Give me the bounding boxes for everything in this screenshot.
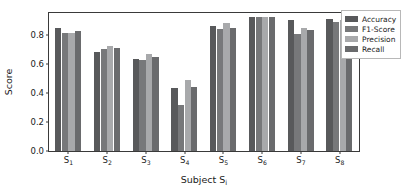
y-tick-mark bbox=[46, 121, 49, 122]
x-tick-label: S7 bbox=[296, 156, 305, 166]
bar bbox=[133, 59, 139, 151]
x-tick-label-subscript: 2 bbox=[108, 159, 112, 166]
x-tick-label-subscript: 6 bbox=[263, 159, 267, 166]
bar bbox=[333, 22, 339, 151]
legend-swatch-icon bbox=[345, 46, 358, 52]
y-tick-mark bbox=[46, 92, 49, 93]
legend-label: Precision bbox=[362, 36, 395, 44]
x-tick-label-subscript: 3 bbox=[147, 159, 151, 166]
x-tick-label: S6 bbox=[257, 156, 266, 166]
x-tick-mark bbox=[339, 151, 340, 154]
legend-item[interactable]: Recall bbox=[345, 45, 396, 55]
bar bbox=[217, 29, 223, 151]
bar bbox=[171, 88, 177, 151]
bar bbox=[294, 34, 300, 151]
legend-label: Accuracy bbox=[362, 16, 396, 24]
y-tick-mark bbox=[46, 63, 49, 64]
y-axis-label: Score bbox=[3, 69, 14, 96]
legend-label: Recall bbox=[362, 46, 384, 54]
bar bbox=[191, 87, 197, 151]
y-tick-label: 0.4 bbox=[30, 89, 44, 98]
figure-canvas: Score 0.00.20.40.60.8S1S2S3S4S5S6S7S8 Su… bbox=[0, 0, 416, 189]
bar bbox=[185, 80, 191, 151]
bar bbox=[94, 52, 100, 152]
x-tick-mark bbox=[262, 151, 263, 154]
x-axis-label-main: Subject S bbox=[181, 174, 226, 185]
bar bbox=[230, 28, 236, 151]
bar bbox=[210, 26, 216, 151]
chart-legend: AccuracyF1-ScorePrecisionRecall bbox=[341, 10, 401, 59]
legend-swatch-icon bbox=[345, 26, 358, 32]
x-tick-label-subscript: 7 bbox=[302, 159, 306, 166]
plot-area: 0.00.20.40.60.8S1S2S3S4S5S6S7S8 bbox=[49, 13, 359, 151]
bar bbox=[55, 28, 61, 151]
x-tick-label: S2 bbox=[102, 156, 111, 166]
bar bbox=[146, 54, 152, 151]
bar bbox=[114, 48, 120, 151]
legend-label: F1-Score bbox=[362, 26, 395, 34]
x-tick-label: S3 bbox=[141, 156, 150, 166]
legend-item[interactable]: Accuracy bbox=[345, 15, 396, 25]
x-tick-mark bbox=[300, 151, 301, 154]
bar bbox=[326, 19, 332, 151]
bar bbox=[152, 57, 158, 151]
y-tick-label: 0.6 bbox=[30, 60, 44, 69]
bar bbox=[62, 33, 68, 151]
x-tick-mark bbox=[107, 151, 108, 154]
legend-swatch-icon bbox=[345, 16, 358, 22]
bar bbox=[139, 60, 145, 151]
x-tick-label-subscript: 1 bbox=[69, 159, 73, 166]
x-tick-mark bbox=[145, 151, 146, 154]
bar bbox=[301, 28, 307, 151]
bar bbox=[288, 20, 294, 151]
x-axis-label-subscript: i bbox=[225, 179, 227, 187]
x-tick-mark bbox=[184, 151, 185, 154]
bar bbox=[223, 23, 229, 151]
bar bbox=[107, 46, 113, 151]
y-tick-mark bbox=[46, 34, 49, 35]
legend-item[interactable]: Precision bbox=[345, 35, 396, 45]
bar bbox=[178, 105, 184, 151]
bar bbox=[307, 30, 313, 151]
legend-item[interactable]: F1-Score bbox=[345, 25, 396, 35]
y-tick-label: 0.2 bbox=[30, 118, 44, 127]
x-tick-label-subscript: 8 bbox=[340, 159, 344, 166]
bar bbox=[249, 17, 255, 151]
x-tick-label-subscript: 4 bbox=[185, 159, 189, 166]
plot-frame: 0.00.20.40.60.8S1S2S3S4S5S6S7S8 bbox=[48, 12, 360, 152]
x-tick-label: S1 bbox=[64, 156, 73, 166]
bar bbox=[75, 31, 81, 151]
x-tick-label: S4 bbox=[180, 156, 189, 166]
legend-swatch-icon bbox=[345, 36, 358, 42]
bar bbox=[269, 17, 275, 151]
x-tick-mark bbox=[68, 151, 69, 154]
x-tick-label: S5 bbox=[219, 156, 228, 166]
y-tick-label: 0.8 bbox=[30, 31, 44, 40]
x-tick-label-subscript: 5 bbox=[224, 159, 228, 166]
x-axis-label: Subject Si bbox=[181, 174, 227, 187]
x-tick-label: S8 bbox=[335, 156, 344, 166]
bar bbox=[262, 17, 268, 151]
y-tick-mark bbox=[46, 151, 49, 152]
bar bbox=[256, 17, 262, 151]
bar bbox=[101, 49, 107, 151]
bar bbox=[68, 33, 74, 151]
y-tick-label: 0.0 bbox=[30, 147, 44, 156]
x-tick-mark bbox=[223, 151, 224, 154]
